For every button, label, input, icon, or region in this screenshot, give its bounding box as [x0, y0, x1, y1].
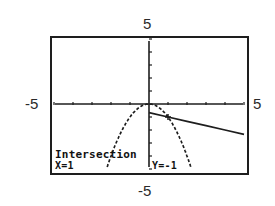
graph-plot	[0, 0, 275, 206]
intersection-title: Intersection	[55, 149, 137, 160]
y-readout: Y=-1	[152, 161, 177, 171]
x-readout: X=1	[55, 161, 74, 171]
